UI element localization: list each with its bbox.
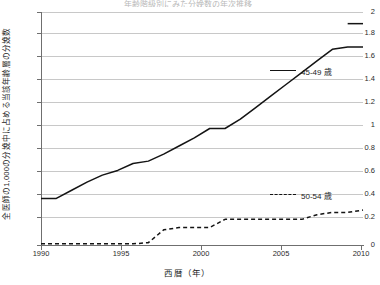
legend-item-50-54: 50-54 歳 [270, 190, 332, 201]
series-line-50-54 [41, 210, 363, 244]
legend-line-dashed-icon [270, 194, 296, 195]
legend-line-solid-icon [270, 70, 296, 71]
legend-label: 50-54 歳 [301, 192, 332, 201]
legend-item-45-49: 45-49 歳 [270, 66, 332, 77]
legend-label: 45-49 歳 [301, 68, 332, 77]
